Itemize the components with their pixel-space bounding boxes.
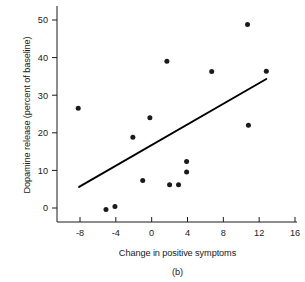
data-point <box>140 178 145 183</box>
data-point <box>147 115 152 120</box>
x-axis-ticks: -8-40481216 <box>76 217 300 238</box>
x-tick-label: 12 <box>254 228 264 238</box>
y-tick-label: 30 <box>38 91 48 101</box>
regression-line-segment <box>79 79 266 187</box>
data-point <box>130 135 135 140</box>
data-point <box>184 159 189 164</box>
plot-canvas: 01020304050 -8-40481216 <box>0 0 305 282</box>
y-tick-label: 10 <box>38 166 48 176</box>
data-points <box>76 22 269 212</box>
y-axis-label: Dopamine release (percent of baseline) <box>22 15 32 215</box>
x-tick-label: 8 <box>221 228 226 238</box>
data-point <box>167 182 172 187</box>
x-axis-label: Change in positive symptoms <box>55 248 300 258</box>
axes <box>57 6 297 222</box>
y-axis-ticks: 01020304050 <box>38 15 57 213</box>
x-tick-label: 16 <box>290 228 300 238</box>
x-tick-label: 4 <box>185 228 190 238</box>
data-point <box>246 123 251 128</box>
data-point <box>103 207 108 212</box>
data-point <box>76 106 81 111</box>
y-tick-label: 50 <box>38 15 48 25</box>
y-tick-label: 0 <box>43 203 48 213</box>
data-point <box>184 169 189 174</box>
y-tick-label: 20 <box>38 128 48 138</box>
scatter-plot-figure: 01020304050 -8-40481216 Dopamine release… <box>0 0 305 282</box>
x-tick-label: 0 <box>149 228 154 238</box>
data-point <box>245 22 250 27</box>
y-tick-label: 40 <box>38 53 48 63</box>
data-point <box>209 69 214 74</box>
data-point <box>164 59 169 64</box>
data-point <box>176 182 181 187</box>
data-point <box>264 69 269 74</box>
regression-line <box>79 79 266 187</box>
data-point <box>112 204 117 209</box>
x-tick-label: -4 <box>112 228 120 238</box>
figure-caption: (b) <box>55 267 300 277</box>
x-tick-label: -8 <box>76 228 84 238</box>
